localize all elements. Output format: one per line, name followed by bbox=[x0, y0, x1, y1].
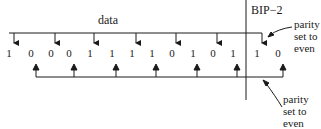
bit-10: 0 bbox=[208, 47, 218, 59]
bottom-annotation-line1: parity bbox=[283, 94, 309, 105]
bip2-parity-bit-odd: 0 bbox=[273, 47, 283, 59]
bip2-parity-bit-even: 1 bbox=[252, 47, 262, 59]
bit-3: 0 bbox=[64, 47, 74, 59]
bottom-annotation-line2: set to bbox=[283, 106, 307, 117]
top-bracket bbox=[9, 33, 262, 43]
bit-4: 1 bbox=[85, 47, 95, 59]
top-annotation-pointer bbox=[268, 27, 292, 37]
bit-11: 1 bbox=[228, 47, 238, 59]
bit-8: 0 bbox=[167, 47, 177, 59]
top-annotation-line3: even bbox=[294, 43, 315, 54]
bit-0: 1 bbox=[4, 47, 14, 59]
bit-1: 0 bbox=[26, 47, 36, 59]
bit-6: 1 bbox=[127, 47, 137, 59]
bit-5: 1 bbox=[107, 47, 117, 59]
top-annotation-line2: set to bbox=[294, 31, 318, 42]
bottom-annotation-line3: even bbox=[283, 118, 304, 129]
bit-9: 1 bbox=[188, 47, 198, 59]
bottom-annotation-pointer bbox=[263, 80, 282, 107]
bit-2: 0 bbox=[46, 47, 56, 59]
bottom-bracket bbox=[33, 64, 286, 77]
top-annotation-line1: parity bbox=[294, 19, 320, 30]
bip2-label: BIP−2 bbox=[251, 5, 282, 16]
bit-7: 1 bbox=[147, 47, 157, 59]
data-label: data bbox=[98, 15, 118, 26]
bip2-parity-diagram bbox=[0, 0, 321, 129]
